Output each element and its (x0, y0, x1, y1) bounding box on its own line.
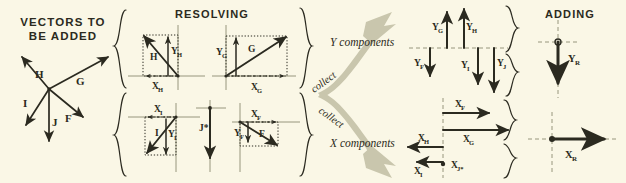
resolve-H-ysub: H (177, 51, 182, 58)
y-components-title: Y components (330, 36, 395, 49)
vector-resolution-diagram: VECTORS TO BE ADDED H G I J F RESOLVING (0, 0, 626, 183)
vector-G-label: G (76, 75, 85, 87)
xcomp-G-sub: G (469, 139, 474, 146)
resolving-title: RESOLVING (175, 8, 249, 20)
resolve-F-xsub: F (257, 114, 261, 121)
vectors-title-line2: BE ADDED (29, 30, 97, 42)
ycomp-G-sub: G (438, 27, 443, 34)
resolve-I-label: I (155, 128, 159, 138)
vector-F-label: F (65, 112, 72, 124)
vectors-title-line1: VECTORS TO (20, 16, 105, 28)
xcomp-H-sub: H (424, 138, 429, 145)
adding-title: ADDING (545, 8, 595, 20)
ycomp-H-sub: H (472, 27, 477, 34)
resolve-H-label: H (150, 52, 158, 62)
resolve-H-xsub: H (158, 86, 163, 93)
resolve-G-label: G (248, 44, 256, 54)
figure-canvas: VECTORS TO BE ADDED H G I J F RESOLVING (0, 0, 626, 183)
ycomp-F-sub: F (420, 63, 424, 70)
vector-J-label: J (52, 116, 58, 128)
resolve-G-ysub: G (222, 52, 227, 59)
resolve-F-label: F (259, 129, 265, 139)
xcomp-J-sub: J* (457, 165, 464, 172)
resolve-F-ysub: F (240, 133, 244, 140)
x-components-title: X components (329, 137, 395, 150)
xcomp-F-sub: F (461, 104, 465, 111)
resolve-J-note: J* (199, 123, 209, 133)
vector-I-label: I (23, 97, 27, 109)
resolve-G-xsub: G (257, 87, 262, 94)
vector-H-label: H (35, 68, 44, 80)
